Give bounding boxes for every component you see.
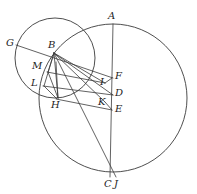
- point-label-E: E: [115, 104, 122, 114]
- point-label-I: I: [100, 77, 104, 87]
- segment-I-F: [105, 78, 112, 83]
- segment-G-B-F: [16, 45, 113, 78]
- large-circle: [39, 24, 187, 172]
- point-label-G: G: [6, 38, 14, 48]
- point-label-H: H: [51, 100, 60, 110]
- circles-group: [15, 18, 187, 172]
- segment-B-K: [54, 53, 105, 102]
- segment-A-C: [110, 24, 113, 177]
- point-label-L: L: [31, 78, 38, 88]
- point-label-F: F: [115, 71, 122, 81]
- point-label-A: A: [108, 11, 115, 21]
- point-label-D: D: [115, 88, 123, 98]
- point-label-C: C: [104, 179, 112, 189]
- point-label-B: B: [48, 40, 55, 50]
- point-label-M: M: [32, 61, 42, 71]
- geometry-figure: A B C D E F G H I J K L M: [0, 0, 197, 194]
- point-label-J: J: [114, 179, 118, 189]
- point-label-K: K: [98, 97, 105, 107]
